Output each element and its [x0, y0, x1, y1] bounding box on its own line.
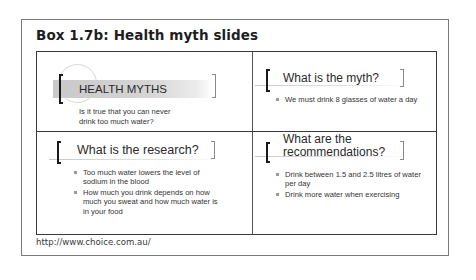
- right-bracket-icon: [400, 141, 404, 160]
- heading-underline: [255, 85, 405, 86]
- slide-what-is-the-research: What is the research? Too much water low…: [37, 132, 252, 234]
- bullet-list: We must drink 8 glasses of water a day: [275, 95, 425, 105]
- bullet-text: Drink between 1.5 and 2.5 litres of wate…: [285, 170, 421, 188]
- bullet-item: We must drink 8 glasses of water a day: [275, 95, 425, 104]
- box-title: Box 1.7b: Health myth slides: [36, 27, 258, 43]
- right-bracket-icon: [211, 141, 215, 159]
- left-bracket-icon: [266, 142, 270, 163]
- body-line: Is it true that you can never: [79, 107, 171, 117]
- bullet-list: Too much water lowers the level of sodiu…: [73, 168, 223, 217]
- slide-what-are-the-recommendations: What are the recommendations? Drink betw…: [253, 132, 436, 234]
- bullet-icon: [276, 98, 279, 101]
- bullet-icon: [276, 193, 279, 196]
- bullet-text: How much you drink depends on how much y…: [83, 188, 218, 216]
- left-bracket-icon: [266, 69, 270, 92]
- bullet-icon: [276, 173, 279, 176]
- body-line: drink too much water?: [79, 117, 171, 127]
- bullet-item: How much you drink depends on how much y…: [73, 188, 223, 216]
- bullet-icon: [74, 191, 77, 194]
- slide-health-myths: HEALTH MYTHS Is it true that you can nev…: [37, 52, 252, 131]
- bullet-item: Drink between 1.5 and 2.5 litres of wate…: [275, 170, 425, 189]
- heading-underline: [49, 159, 219, 160]
- source-link[interactable]: http://www.choice.com.au/: [36, 237, 151, 247]
- slide-heading: What are the recommendations?: [283, 133, 385, 159]
- bullet-item: Too much water lowers the level of sodiu…: [73, 168, 223, 187]
- left-bracket-icon: [57, 141, 61, 164]
- heading-line: recommendations?: [283, 146, 385, 159]
- slide-heading: What is the myth?: [283, 72, 379, 85]
- slide-what-is-the-myth: What is the myth? We must drink 8 glasse…: [253, 52, 436, 131]
- bullet-icon: [74, 171, 77, 174]
- right-bracket-icon: [212, 74, 216, 98]
- slide-body: Is it true that you can never drink too …: [79, 107, 171, 126]
- slide-heading: HEALTH MYTHS: [79, 83, 167, 96]
- right-bracket-icon: [400, 69, 404, 87]
- bullet-text: Too much water lowers the level of sodiu…: [83, 168, 200, 186]
- bullet-text: Drink more water when exercising: [285, 190, 399, 199]
- bullet-list: Drink between 1.5 and 2.5 litres of wate…: [275, 170, 425, 200]
- left-bracket-icon: [59, 74, 63, 104]
- bullet-text: We must drink 8 glasses of water a day: [285, 95, 417, 104]
- slide-heading: What is the research?: [77, 144, 199, 157]
- bullet-item: Drink more water when exercising: [275, 190, 425, 199]
- slides-grid: HEALTH MYTHS Is it true that you can nev…: [36, 51, 437, 235]
